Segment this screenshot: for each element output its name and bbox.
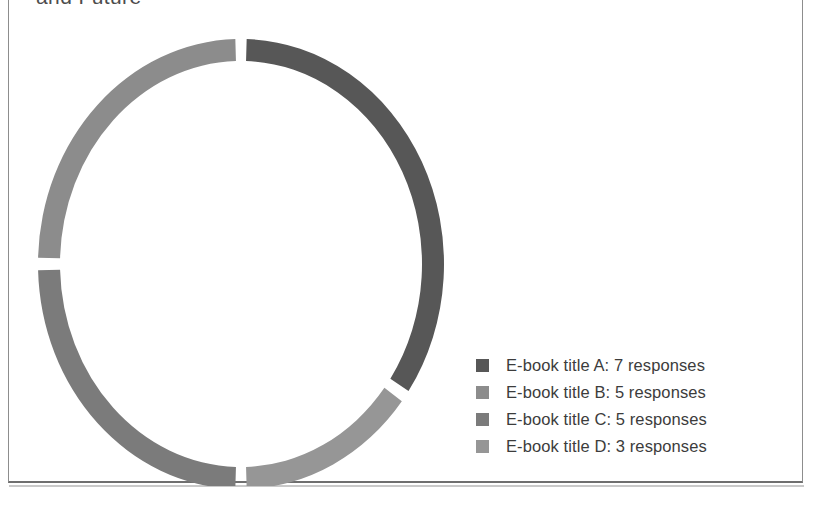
legend-label-b: E-book title B: 5 responses <box>506 383 706 402</box>
legend-swatch-b <box>476 386 489 399</box>
donut-slice <box>38 270 236 486</box>
legend-item: E-book title D: 3 responses <box>476 433 796 460</box>
legend-item: E-book title B: 5 responses <box>476 379 796 406</box>
legend-swatch-a <box>476 359 489 372</box>
chart-legend: E-book title A: 7 responses E-book title… <box>476 352 796 460</box>
donut-slice <box>246 388 402 486</box>
legend-swatch-d <box>476 440 489 453</box>
legend-label-d: E-book title D: 3 responses <box>506 437 707 456</box>
legend-item: E-book title C: 5 responses <box>476 406 796 433</box>
legend-item: E-book title A: 7 responses <box>476 352 796 379</box>
donut-slice-group <box>38 39 444 486</box>
donut-slice <box>246 39 444 391</box>
donut-chart-svg <box>12 6 472 486</box>
legend-label-a: E-book title A: 7 responses <box>506 356 705 375</box>
legend-swatch-c <box>476 413 489 426</box>
donut-chart <box>12 6 472 486</box>
donut-slice <box>38 39 236 258</box>
legend-label-c: E-book title C: 5 responses <box>506 410 707 429</box>
